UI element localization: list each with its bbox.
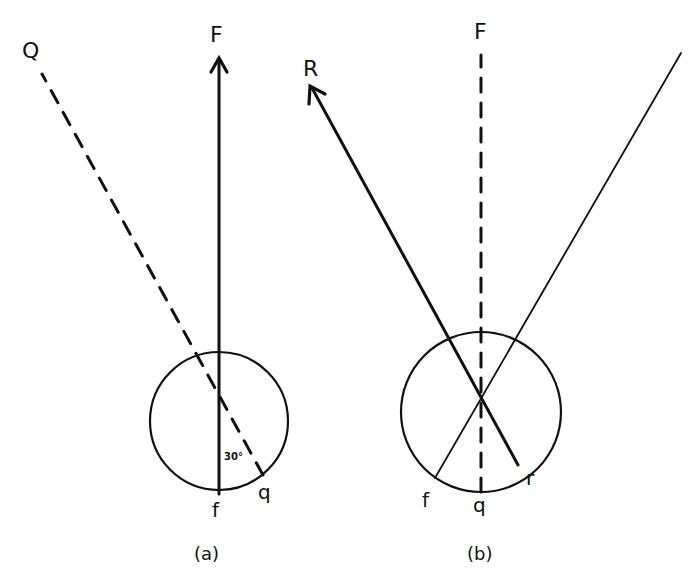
panel-b-r-arrow-shaft xyxy=(312,88,518,465)
panel-b-f-thin-line xyxy=(435,53,681,478)
panel-a xyxy=(42,58,288,494)
panel-a-q-dashed-line xyxy=(42,74,263,475)
label-a-angle: 30° xyxy=(224,452,243,462)
label-a-q: q xyxy=(258,482,271,502)
label-b-F: F xyxy=(474,21,487,43)
panel-b xyxy=(309,53,681,492)
diagram-canvas xyxy=(0,0,697,577)
label-b-f: f xyxy=(422,490,429,510)
label-b-r: r xyxy=(526,468,534,488)
caption-b: (b) xyxy=(467,545,492,563)
label-a-F: F xyxy=(210,24,223,46)
label-b-q: q xyxy=(473,495,486,515)
label-b-R: R xyxy=(303,58,318,80)
caption-a: (a) xyxy=(194,545,219,563)
label-a-Q: Q xyxy=(22,40,39,62)
label-a-f: f xyxy=(212,500,219,520)
